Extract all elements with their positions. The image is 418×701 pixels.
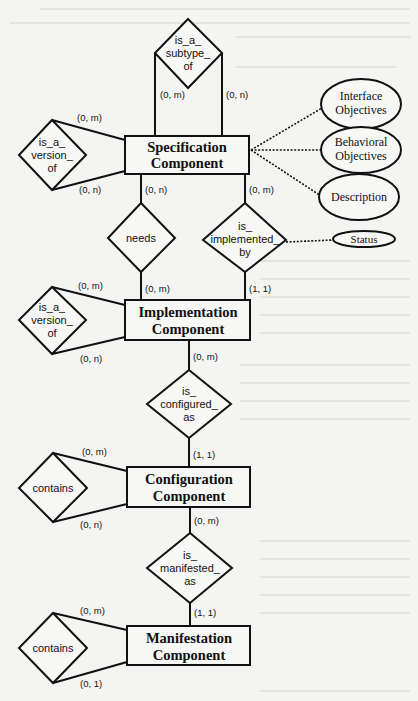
relationship-label: implemented_ [210, 233, 280, 245]
cardinality-label: (0, m) [160, 89, 185, 100]
relationship-label: is_ [183, 549, 198, 561]
relationship-impl-is-a-version-of[interactable]: is_a_ version_ of [19, 287, 86, 354]
relationship-label: configured_ [160, 398, 218, 410]
relationship-is-configured-as[interactable]: is_ configured_ as [147, 370, 231, 438]
relationship-is-a-subtype-of[interactable]: is_a_ subtype_ of [155, 19, 222, 88]
cardinality-label: (0, m) [249, 184, 274, 195]
relationship-manif-contains[interactable]: contains [19, 613, 87, 683]
relationship-label: by [239, 246, 251, 258]
relationship-label: version_ [31, 149, 73, 161]
cardinality-label: (0, m) [193, 351, 218, 362]
cardinality-label: (0, n) [80, 519, 102, 530]
cardinality-label: (0, m) [78, 280, 103, 291]
cardinality-label: (0, n) [79, 184, 101, 195]
entity-label: Implementation [138, 304, 237, 320]
attribute-label: Description [331, 190, 387, 204]
relationship-label: is_a_ [39, 301, 66, 313]
relationship-spec-is-a-version-of[interactable]: is_a_ version_ of [19, 120, 86, 190]
entity-label: Component [152, 321, 225, 337]
relationship-label: is_a_ [175, 34, 202, 46]
attribute-interface-objectives[interactable]: Interface Objectives [321, 79, 401, 129]
cardinality-label: (0, m) [145, 283, 170, 294]
cardinality-label: (0, 1) [80, 678, 102, 689]
entity-label: Component [153, 647, 226, 663]
entity-label: Manifestation [146, 630, 232, 646]
cardinality-label: (0, n) [226, 89, 248, 100]
entity-label: Component [151, 155, 224, 171]
entity-configuration-component[interactable]: Configuration Component [127, 467, 250, 507]
relationship-label: version_ [31, 314, 73, 326]
relationship-label: is_a_ [39, 136, 66, 148]
entity-specification-component[interactable]: Specification Component [125, 136, 249, 174]
cardinality-label: (0, m) [77, 112, 102, 123]
relationship-label: manifested_ [160, 562, 221, 574]
cardinality-label: (0, m) [80, 605, 105, 616]
relationship-label: of [183, 60, 193, 72]
relationship-label: contains [33, 482, 74, 494]
cardinality-label: (0, n) [145, 184, 167, 195]
relationship-label: of [47, 162, 57, 174]
relationship-config-contains[interactable]: contains [19, 453, 87, 522]
attribute-status[interactable]: Status [333, 231, 395, 247]
relationship-label: needs [126, 232, 156, 244]
er-diagram: Specification Component Implementation C… [0, 0, 418, 701]
cardinality-label: (1, 1) [194, 607, 216, 618]
cardinality-label: (0, m) [82, 446, 107, 457]
relationship-is-implemented-by[interactable]: is_ implemented_ by [203, 203, 286, 272]
cardinality-label: (1, 1) [193, 449, 215, 460]
relationship-label: as [183, 411, 195, 423]
relationship-label: is_ [182, 385, 197, 397]
entity-implementation-component[interactable]: Implementation Component [125, 300, 250, 340]
relationship-label: of [47, 327, 57, 339]
relationship-label: subtype_ [166, 47, 212, 59]
attribute-label: Status [351, 233, 378, 245]
relationship-label: is_ [238, 220, 253, 232]
attribute-behavioral-objectives[interactable]: Behavioral Objectives [321, 127, 401, 173]
relationship-label: contains [33, 642, 74, 654]
attribute-label: Interface [340, 89, 383, 103]
entity-manifestation-component[interactable]: Manifestation Component [127, 626, 250, 665]
cardinality-label: (1, 1) [249, 283, 271, 294]
relationship-is-manifested-as[interactable]: is_ manifested_ as [147, 533, 232, 603]
entity-label: Specification [147, 139, 227, 155]
attribute-label: Objectives [335, 103, 387, 117]
attribute-label: Objectives [335, 149, 387, 163]
attribute-description[interactable]: Description [319, 174, 399, 220]
relationship-label: as [184, 575, 196, 587]
entity-label: Configuration [145, 471, 233, 487]
cardinality-label: (0, m) [194, 515, 219, 526]
relationship-needs[interactable]: needs [108, 203, 175, 272]
cardinality-label: (0, n) [80, 353, 102, 364]
entity-label: Component [153, 488, 226, 504]
attribute-label: Behavioral [335, 135, 388, 149]
